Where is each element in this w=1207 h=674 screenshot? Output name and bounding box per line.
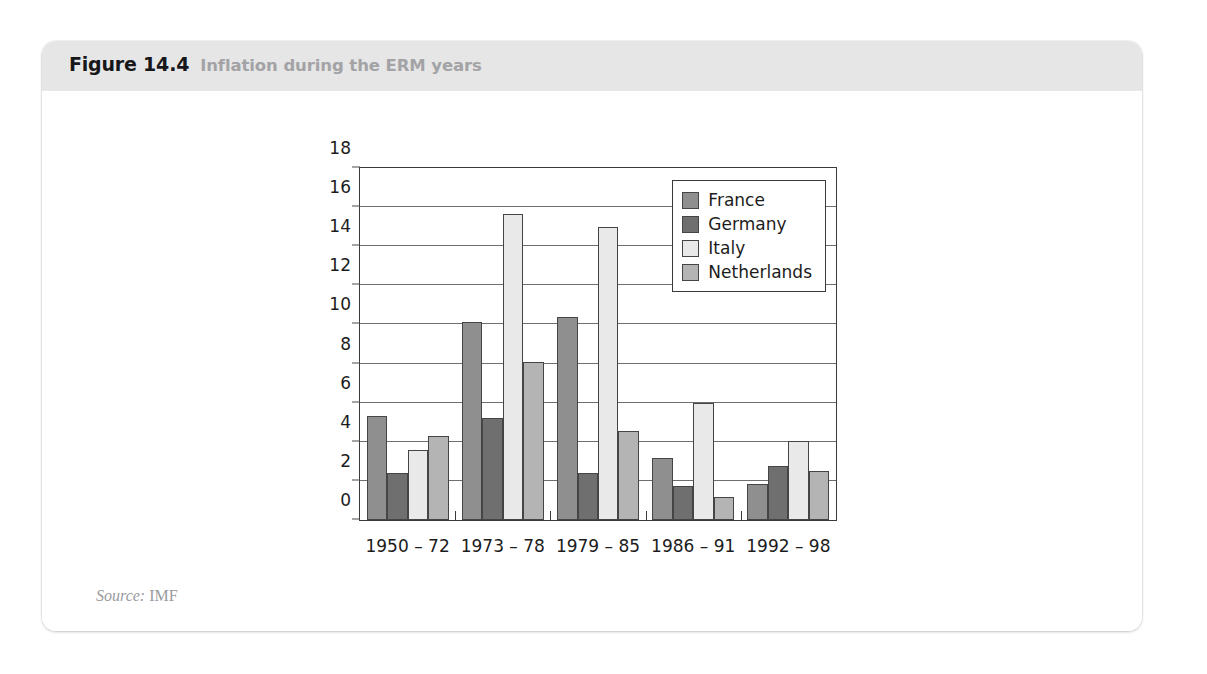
bar-italy-2 <box>598 227 618 520</box>
bar-germany-1 <box>482 418 502 520</box>
figure-header: Figure 14.4 Inflation during the ERM yea… <box>42 41 1142 91</box>
legend-swatch-france <box>682 192 699 209</box>
bar-france-1 <box>462 322 482 520</box>
figure-card: Figure 14.4 Inflation during the ERM yea… <box>42 41 1142 631</box>
legend-label: France <box>708 190 765 210</box>
legend-swatch-italy <box>682 240 699 257</box>
figure-header-text: Figure 14.4 Inflation during the ERM yea… <box>69 53 482 75</box>
bar-netherlands-0 <box>428 436 448 520</box>
page-root: Figure 14.4 Inflation during the ERM yea… <box>0 0 1207 674</box>
y-tick-mark <box>352 206 360 207</box>
source-keyword: Source: <box>96 587 145 604</box>
x-tick-label: 1950 – 72 <box>365 536 449 556</box>
chart-legend: FranceGermanyItalyNetherlands <box>672 180 826 292</box>
bar-germany-2 <box>578 473 598 520</box>
y-tick-label: 2 <box>340 451 351 471</box>
y-tick-label: 12 <box>329 255 351 275</box>
bar-italy-1 <box>503 214 523 520</box>
bar-france-3 <box>652 458 672 520</box>
bar-germany-0 <box>387 473 407 520</box>
x-axis-tick-mark <box>550 511 551 520</box>
y-tick-label: 14 <box>329 216 351 236</box>
bar-netherlands-1 <box>523 362 543 520</box>
y-tick-label: 16 <box>329 177 351 197</box>
x-tick-label: 1992 – 98 <box>746 536 830 556</box>
y-tick-mark <box>352 401 360 402</box>
bar-germany-3 <box>673 486 693 520</box>
y-tick-mark <box>352 167 360 168</box>
y-tick-mark <box>352 440 360 441</box>
bar-group <box>557 168 639 520</box>
x-axis-tick-mark <box>741 511 742 520</box>
bar-italy-4 <box>788 441 808 520</box>
bar-netherlands-3 <box>714 497 734 520</box>
y-tick-mark <box>352 479 360 480</box>
y-tick-mark <box>352 323 360 324</box>
source-value: IMF <box>149 587 177 604</box>
legend-label: Netherlands <box>708 262 812 282</box>
bar-france-4 <box>747 484 767 520</box>
x-axis-tick-mark <box>455 511 456 520</box>
y-tick-label: 8 <box>340 334 351 354</box>
y-tick-label: 4 <box>340 412 351 432</box>
legend-item-italy: Italy <box>682 236 812 260</box>
legend-item-germany: Germany <box>682 212 812 236</box>
figure-title: Inflation during the ERM years <box>200 56 482 75</box>
legend-item-france: France <box>682 188 812 212</box>
bar-netherlands-4 <box>809 471 829 520</box>
legend-swatch-germany <box>682 216 699 233</box>
bar-germany-4 <box>768 466 788 520</box>
plot-box: 024681012141618 1950 – 721973 – 781979 –… <box>359 167 837 521</box>
x-tick-label: 1979 – 85 <box>556 536 640 556</box>
bar-italy-3 <box>693 403 713 520</box>
y-tick-label: 6 <box>340 373 351 393</box>
y-tick-label: 0 <box>340 490 351 510</box>
figure-number: Figure 14.4 <box>69 53 189 75</box>
legend-label: Germany <box>708 214 786 234</box>
plot-host: 024681012141618 1950 – 721973 – 781979 –… <box>317 159 837 579</box>
y-tick-mark <box>352 519 360 520</box>
bar-group <box>462 168 544 520</box>
bar-france-2 <box>557 317 577 520</box>
bar-netherlands-2 <box>618 431 638 520</box>
legend-label: Italy <box>708 238 745 258</box>
y-tick-mark <box>352 284 360 285</box>
bar-france-0 <box>367 416 387 520</box>
figure-source: Source: IMF <box>96 587 178 605</box>
y-tick-label: 10 <box>329 294 351 314</box>
x-tick-label: 1973 – 78 <box>461 536 545 556</box>
x-tick-label: 1986 – 91 <box>651 536 735 556</box>
chart-area: 024681012141618 1950 – 721973 – 781979 –… <box>42 91 1142 631</box>
legend-item-netherlands: Netherlands <box>682 260 812 284</box>
bar-group <box>367 168 449 520</box>
x-axis-tick-mark <box>646 511 647 520</box>
legend-swatch-netherlands <box>682 264 699 281</box>
y-tick-mark <box>352 245 360 246</box>
bar-italy-0 <box>408 450 428 520</box>
y-tick-mark <box>352 362 360 363</box>
y-tick-label: 18 <box>329 138 351 158</box>
